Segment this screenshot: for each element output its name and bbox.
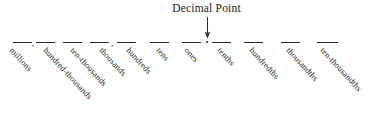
place-blank-ten-thousandths — [317, 42, 338, 43]
group-separator-comma: , — [32, 40, 34, 46]
place-blank-thousandths — [281, 42, 300, 43]
place-blank-hundred-thousands — [36, 42, 55, 43]
place-value-chart: Decimal Point ,, millionshundred-thousan… — [0, 0, 375, 128]
decimal-point-dot — [206, 41, 208, 43]
place-blank-tens — [150, 42, 169, 43]
group-separator-comma: , — [111, 40, 113, 46]
place-blank-ten-thousands — [63, 42, 82, 43]
place-blank-thousands — [90, 42, 109, 43]
place-blank-hundreds — [117, 42, 136, 43]
place-blank-tenths — [212, 42, 231, 43]
place-blank-ones — [182, 42, 201, 43]
place-blank-hundredths — [244, 42, 263, 43]
place-blank-millions — [13, 42, 32, 43]
